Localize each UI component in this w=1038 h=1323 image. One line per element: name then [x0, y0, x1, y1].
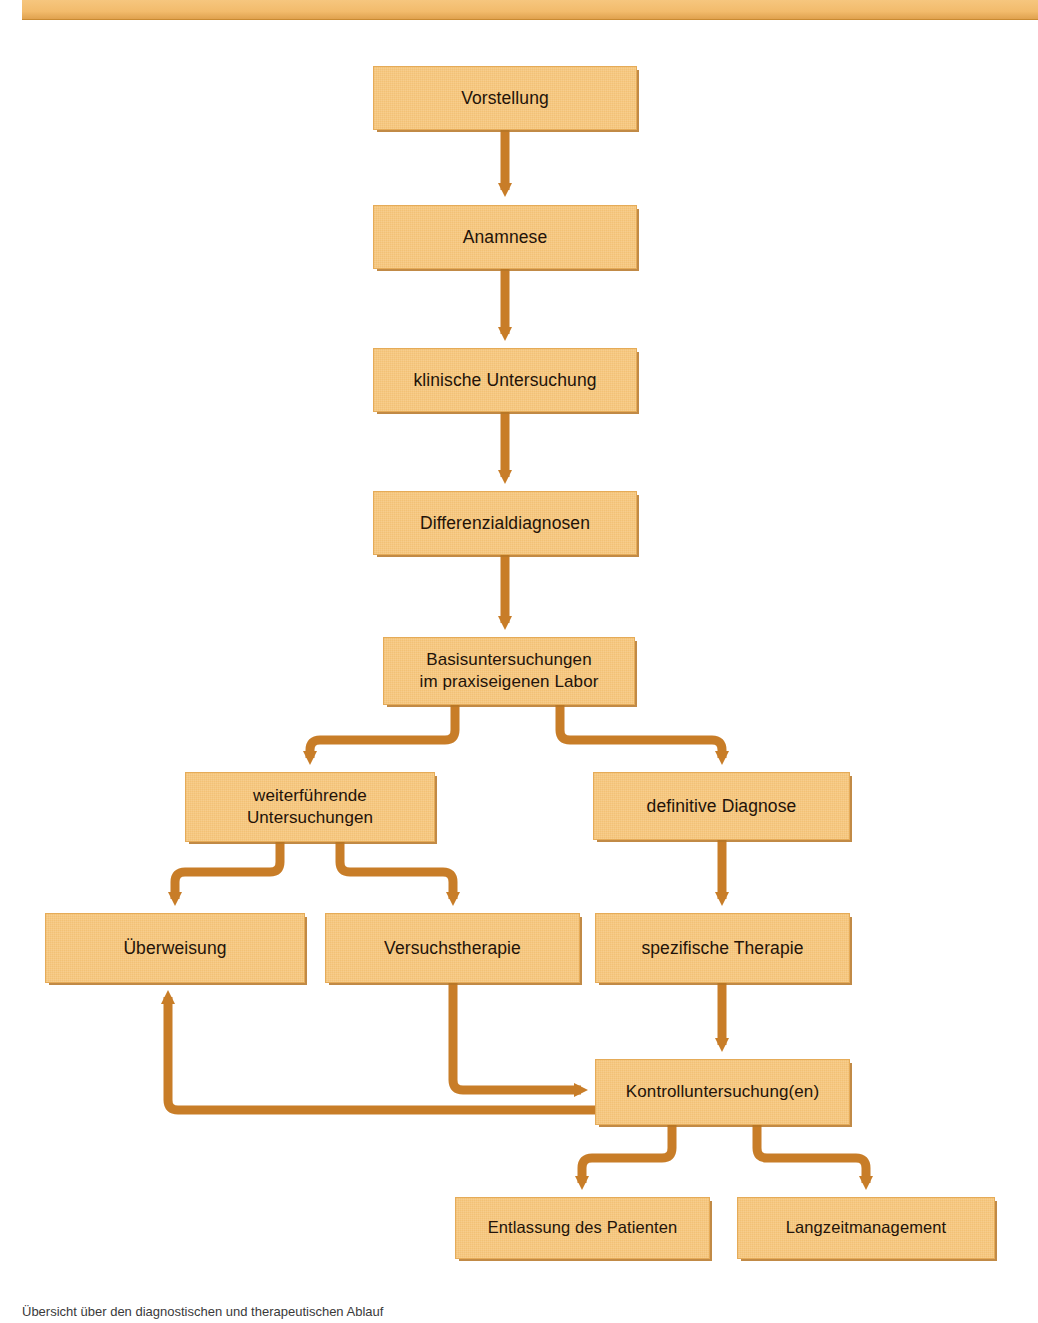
- node-label: Anamnese: [463, 226, 547, 248]
- node-label: Basisuntersuchungen im praxiseigenen Lab…: [420, 649, 599, 693]
- edge-kontrolle-entlassung: [582, 1125, 672, 1183]
- node-label: weiterführende Untersuchungen: [247, 785, 373, 829]
- edge-weiterfuehrende-ueberweisung: [175, 842, 280, 899]
- node-vorstellung[interactable]: Vorstellung: [373, 66, 637, 130]
- edge-basis-weiterfuehrende: [310, 705, 455, 758]
- node-label: definitive Diagnose: [647, 795, 797, 817]
- node-label: Kontrolluntersuchung(en): [626, 1081, 819, 1103]
- node-langzeitmanagement[interactable]: Langzeitmanagement: [737, 1197, 995, 1259]
- node-label: Entlassung des Patienten: [488, 1217, 678, 1238]
- node-anamnese[interactable]: Anamnese: [373, 205, 637, 269]
- node-label: Vorstellung: [461, 87, 549, 109]
- node-label: Versuchstherapie: [384, 937, 521, 959]
- node-differenzialdiagnosen[interactable]: Differenzialdiagnosen: [373, 491, 637, 555]
- edge-versuchstherapie-kontrolle: [453, 983, 581, 1090]
- node-label: Langzeitmanagement: [786, 1217, 947, 1238]
- edge-kontrolle-langzeit: [757, 1125, 866, 1183]
- node-basisuntersuchungen[interactable]: Basisuntersuchungen im praxiseigenen Lab…: [383, 637, 635, 705]
- node-definitive-diagnose[interactable]: definitive Diagnose: [593, 772, 850, 840]
- node-label: spezifische Therapie: [641, 937, 803, 959]
- edge-basis-definitive: [560, 705, 722, 758]
- node-label: Überweisung: [123, 937, 226, 959]
- node-ueberweisung[interactable]: Überweisung: [45, 913, 305, 983]
- node-klinische-untersuchung[interactable]: klinische Untersuchung: [373, 348, 637, 412]
- figure-caption: Übersicht über den diagnostischen und th…: [22, 1303, 982, 1321]
- node-weiterfuehrende-untersuchungen[interactable]: weiterführende Untersuchungen: [185, 772, 435, 842]
- node-label: klinische Untersuchung: [413, 369, 596, 391]
- node-kontrolluntersuchungen[interactable]: Kontrolluntersuchung(en): [595, 1059, 850, 1125]
- edge-weiterfuehrende-versuchstherapie: [340, 842, 453, 899]
- figure-page: Vorstellung Anamnese klinische Untersuch…: [0, 0, 1038, 1323]
- node-spezifische-therapie[interactable]: spezifische Therapie: [595, 913, 850, 983]
- node-versuchstherapie[interactable]: Versuchstherapie: [325, 913, 580, 983]
- node-entlassung-des-patienten[interactable]: Entlassung des Patienten: [455, 1197, 710, 1259]
- node-label: Differenzialdiagnosen: [420, 512, 590, 534]
